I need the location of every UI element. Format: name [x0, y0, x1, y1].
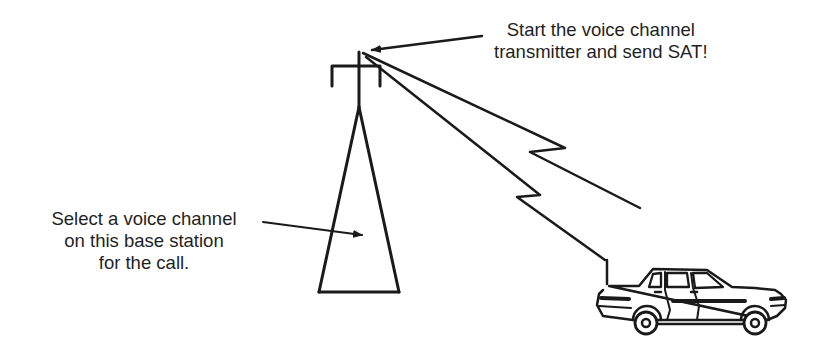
tower-body-annotation-line-3: for the call. — [28, 252, 260, 274]
tower-top-annotation: Start the voice channel transmitter and … — [494, 19, 708, 63]
tower-body-annotation-line-2: on this base station — [28, 230, 260, 252]
car-icon — [597, 260, 786, 334]
tower-top-arrow — [372, 36, 482, 50]
tower-body-annotation-line-1: Select a voice channel — [28, 208, 260, 230]
cell-tower-icon — [319, 52, 399, 292]
tower-body-arrow — [263, 222, 362, 235]
tower-top-annotation-line-1: Start the voice channel — [494, 19, 708, 41]
tower-top-annotation-line-2: transmitter and send SAT! — [494, 41, 708, 63]
lightning-beam-icon — [363, 53, 640, 260]
tower-body-annotation: Select a voice channel on this base stat… — [28, 208, 260, 274]
